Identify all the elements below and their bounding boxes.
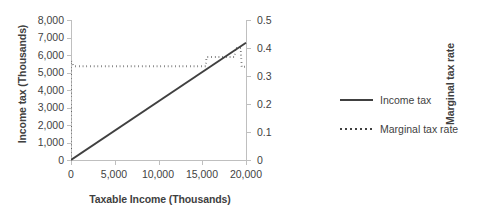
y-axis-right-tick-0-1: 0.1 <box>257 126 297 138</box>
legend-label-marginal-tax-rate: Marginal tax rate <box>380 123 458 135</box>
y-axis-left-tick-6000: 6,000 <box>19 49 64 61</box>
y-axis-right-tickmark <box>247 76 251 77</box>
series-income-tax <box>71 43 246 160</box>
y-axis-right-tick-0-2: 0.2 <box>257 98 297 110</box>
y-axis-left-tick-2000: 2,000 <box>19 119 64 131</box>
y-axis-right-tickmark <box>247 160 251 161</box>
y-axis-right-tick-0: 0 <box>257 154 297 166</box>
y-axis-left-tick-7000: 7,000 <box>19 31 64 43</box>
x-axis-tickmark <box>202 161 203 165</box>
x-axis-tickmark <box>115 161 116 165</box>
legend-item-marginal-tax-rate: Marginal tax rate <box>340 119 458 139</box>
y-axis-right-tick-0-3: 0.3 <box>257 70 297 82</box>
y-axis-left-tick-3000: 3,000 <box>19 101 64 113</box>
x-axis-tickmark <box>246 161 247 165</box>
x-axis-tickmark <box>71 161 72 165</box>
y-axis-right-tick-0-5: 0.5 <box>257 14 297 26</box>
y-axis-left-tick-0: 0 <box>19 154 64 166</box>
chart-figure: Income tax (Thousands) Marginal tax rate… <box>0 0 486 218</box>
x-axis-title: Taxable Income (Thousands) <box>40 193 280 205</box>
legend-line-solid-icon <box>340 94 373 106</box>
y-axis-right-tick-0-4: 0.4 <box>257 42 297 54</box>
legend-line-dotted-icon <box>340 123 373 135</box>
y-axis-left-tick-4000: 4,000 <box>19 84 64 96</box>
plot-area <box>71 20 246 160</box>
y-axis-left-tick-1000: 1,000 <box>19 136 64 148</box>
y-axis-left-tick-8000: 8,000 <box>19 14 64 26</box>
y-axis-right-tickmark <box>247 132 251 133</box>
y-axis-right-tickmark <box>247 20 251 21</box>
y-axis-right-tickmark <box>247 104 251 105</box>
x-axis-tickmark <box>159 161 160 165</box>
y-axis-right-tickmark <box>247 48 251 49</box>
legend: Income tax Marginal tax rate <box>340 90 458 139</box>
legend-item-income-tax: Income tax <box>340 90 458 110</box>
x-axis-tick-20000: 20,000 <box>216 168 276 180</box>
legend-label-income-tax: Income tax <box>380 94 431 106</box>
series-canvas <box>71 20 247 161</box>
y-axis-left-tick-5000: 5,000 <box>19 66 64 78</box>
